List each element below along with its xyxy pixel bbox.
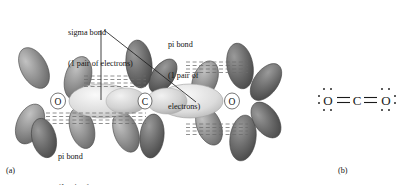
atom-label-oxygen-left: O: [55, 97, 62, 107]
pi-bond-top-caption-line3: electrons): [168, 102, 200, 112]
figure-root: O C O O C: [0, 0, 412, 185]
panel-label-b: (b): [338, 166, 348, 175]
sigma-bond-caption-line2: (1 pair of electrons): [68, 59, 133, 69]
sigma-bond-caption-line1: sigma bond: [68, 28, 133, 38]
lewis-atom-carbon: C: [353, 93, 362, 108]
pi-bond-bottom-caption-line2: (1 pair of: [58, 183, 90, 185]
atom-label-oxygen-right: O: [229, 97, 236, 107]
lewis-double-bond-left: [337, 98, 350, 103]
pi-bond-top-caption-line2: (1 pair of: [168, 71, 200, 81]
sigma-bond-caption: sigma bond (1 pair of electrons): [68, 8, 133, 90]
pi-bond-bottom-caption: pi bond (1 pair of electrons): [58, 132, 90, 185]
lewis-atom-oxygen-left: O: [323, 93, 332, 108]
pi-bond-top-caption-line1: pi bond: [168, 40, 200, 50]
lewis-structure: O C O: [318, 88, 396, 111]
panel-label-a: (a): [6, 166, 15, 175]
atom-label-carbon: C: [142, 97, 148, 107]
pi-bond-bottom-caption-line1: pi bond: [58, 152, 90, 162]
lewis-atom-oxygen-right: O: [381, 93, 390, 108]
lewis-double-bond-right: [364, 98, 377, 103]
pi-bond-top-caption: pi bond (1 pair of electrons): [168, 20, 200, 132]
